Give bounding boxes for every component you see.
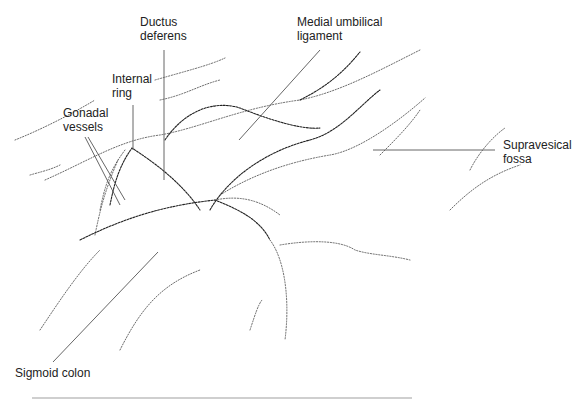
label-gonadal-vessels: Gonadal vessels xyxy=(63,106,108,134)
label-internal-ring: Internal ring xyxy=(112,72,152,100)
label-ductus-deferens: Ductus deferens xyxy=(140,15,187,43)
label-medial-umbilical-ligament: Medial umbilical ligament xyxy=(297,15,382,43)
label-sigmoid-colon: Sigmoid colon xyxy=(15,366,90,380)
sketch-lines xyxy=(15,50,520,350)
anatomy-drawing xyxy=(0,0,584,402)
bottom-divider xyxy=(32,397,412,399)
label-supravesical-fossa: Supravesical fossa xyxy=(503,138,572,166)
